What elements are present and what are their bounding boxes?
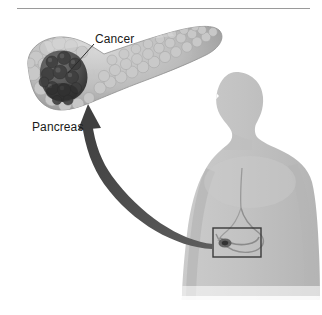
pancreatic-cancer-diagram xyxy=(0,0,322,315)
pancreas-label: Pancreas xyxy=(32,121,84,133)
cancer-label: Cancer xyxy=(95,33,134,45)
